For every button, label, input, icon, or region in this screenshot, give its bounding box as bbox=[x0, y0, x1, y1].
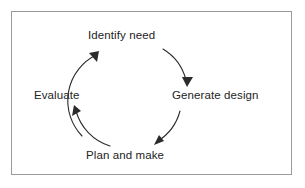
arrowhead-generate-design bbox=[182, 77, 193, 87]
arc-identify-to-generate bbox=[163, 49, 186, 80]
node-label-evaluate: Evaluate bbox=[34, 89, 80, 102]
arc-generate-to-plan bbox=[158, 111, 180, 141]
node-label-plan-and-make: Plan and make bbox=[86, 149, 164, 162]
design-cycle-figure: Identify need Generate design Plan and m… bbox=[0, 0, 305, 188]
node-label-generate-design: Generate design bbox=[172, 89, 259, 102]
arc-plan-to-evaluate bbox=[76, 111, 110, 146]
arrowhead-plan-and-make bbox=[154, 135, 164, 145]
arrowhead-identify-need bbox=[89, 51, 99, 62]
node-label-identify-need: Identify need bbox=[88, 29, 155, 42]
